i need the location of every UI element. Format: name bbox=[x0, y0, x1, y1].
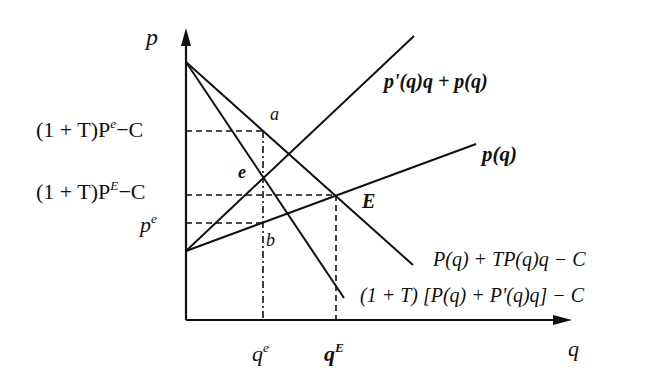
tax-adjusted-price-curve bbox=[186, 62, 413, 265]
y-axis-arrow-icon bbox=[181, 28, 191, 46]
marginal-revenue-label: p'(q)q + p(q) bbox=[384, 70, 488, 93]
y-axis-label: p bbox=[146, 24, 158, 51]
x-axis-label: q bbox=[568, 336, 579, 362]
marginal-revenue-curve bbox=[186, 36, 414, 251]
tax-adjusted-mr-label: (1 + T) [P(q) + P'(q)q] − C bbox=[360, 284, 584, 307]
y-tick-lower: pe bbox=[140, 211, 157, 238]
demand-curve-label: p(q) bbox=[482, 142, 517, 167]
tax-adjusted-mr-curve bbox=[186, 62, 344, 298]
point-a-label: a bbox=[270, 104, 279, 125]
demand-curve bbox=[186, 144, 476, 251]
point-E-label: E bbox=[362, 190, 375, 213]
point-e-label: e bbox=[238, 162, 246, 183]
y-tick-middle: (1 + T)PE−C bbox=[36, 178, 146, 205]
tax-adjusted-price-label: P(q) + TP(q)q − C bbox=[433, 248, 586, 271]
y-tick-upper: (1 + T)Pe−C bbox=[36, 116, 143, 143]
x-tick-qE: qE bbox=[324, 340, 344, 367]
x-tick-qe: qe bbox=[252, 340, 269, 367]
point-b-label: b bbox=[266, 230, 275, 251]
x-axis-arrow-icon bbox=[553, 315, 572, 325]
